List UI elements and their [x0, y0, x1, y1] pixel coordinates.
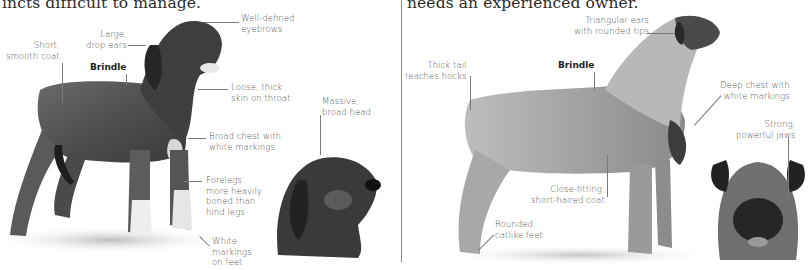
leader-eyebrows — [203, 22, 239, 23]
leader-head — [320, 115, 321, 155]
label-chest-right: Deep chest with white markings — [720, 80, 790, 101]
label-head: Massive, broad head — [322, 96, 371, 117]
label-color-brindle-right: Brindle — [558, 60, 594, 71]
label-coat-right: Close-fitting, short-haired coat — [531, 184, 605, 205]
label-throat: Loose, thick skin on throat — [231, 82, 291, 103]
label-feet-right: Rounded, catlike feet — [495, 219, 543, 240]
leader-forelegs — [184, 181, 202, 182]
label-chest: Broad chest with white markings — [209, 131, 281, 152]
breed-comparison-page: incts difficult to manage. — [0, 0, 810, 270]
label-jaws: Strong, powerful jaws — [736, 119, 795, 140]
label-coat: Short, smooth coat — [6, 40, 60, 61]
label-feet: White markings on feet — [212, 236, 252, 268]
label-color-brindle: Brindle — [90, 62, 126, 73]
leader-coat-right — [607, 155, 608, 197]
label-ears: Large, drop ears — [86, 29, 127, 50]
right-dog-head-image — [708, 150, 808, 260]
label-forelegs: Forelegs more heavily boned than hind le… — [206, 175, 262, 217]
left-dog-head-image — [268, 140, 388, 260]
leader-tail — [470, 76, 471, 110]
leader-coat — [62, 63, 63, 103]
label-tail: Thick tail reaches hocks — [405, 60, 466, 81]
label-eyebrows: Well-defined eyebrows — [241, 13, 295, 34]
leader-ears — [128, 45, 146, 46]
leader-chest — [188, 138, 206, 139]
panel-divider — [401, 0, 402, 262]
leader-throat — [198, 89, 228, 90]
leader-color-right — [594, 72, 595, 90]
leader-color — [126, 74, 127, 85]
leader-ears-right — [647, 33, 675, 34]
leader-jaws — [788, 137, 789, 197]
label-ears-right: Triangular ears with rounded tips — [574, 15, 649, 36]
